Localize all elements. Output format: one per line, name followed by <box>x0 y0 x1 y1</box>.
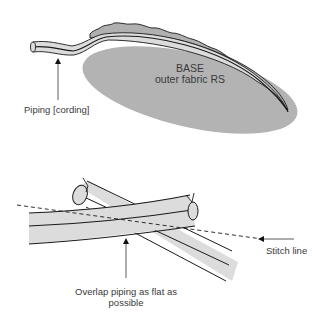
base-label: BASE outer fabric RS <box>150 63 230 85</box>
overlap-arrow-head-icon <box>123 238 129 244</box>
overlap-piping-diagram <box>17 178 294 281</box>
arrow-head-icon <box>55 58 61 64</box>
stitch-line-label: Stitch line <box>266 245 307 256</box>
diagram-canvas <box>0 0 328 326</box>
piping-end <box>31 42 36 52</box>
horizontal-tube-end <box>188 202 198 220</box>
base-fabric-diagram <box>31 23 306 151</box>
base-subtitle: outer fabric RS <box>150 74 230 85</box>
stitch-arrow-head-icon <box>258 236 264 242</box>
piping-label: Piping [cording] <box>24 104 89 115</box>
caption-line-1: Overlap piping as flat as <box>60 286 192 297</box>
caption-line-2: possible <box>60 297 192 308</box>
overlap-caption: Overlap piping as flat as possible <box>60 286 192 308</box>
